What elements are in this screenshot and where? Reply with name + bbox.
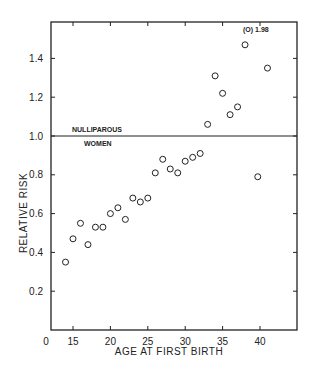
- data-point: [137, 199, 143, 205]
- data-points: [63, 42, 271, 265]
- data-point: [205, 121, 211, 127]
- x-axis-title: AGE AT FIRST BIRTH: [115, 346, 223, 357]
- data-point: [115, 205, 121, 211]
- y-axis-title: RELATIVE RISK: [18, 173, 29, 253]
- data-point: [70, 236, 76, 242]
- x-tick-label: 0: [43, 336, 49, 347]
- data-point: [190, 154, 196, 160]
- data-point: [160, 156, 166, 162]
- data-point: [175, 170, 181, 176]
- data-point: [77, 220, 83, 226]
- data-point: [100, 224, 106, 230]
- reference-line-nulliparous: NULLIPAROUSWOMEN: [51, 126, 297, 147]
- data-point: [227, 112, 233, 118]
- data-point: [264, 65, 270, 71]
- y-tick-label: 0.4: [29, 247, 43, 258]
- reference-label-below: WOMEN: [84, 140, 112, 147]
- data-point: [220, 90, 226, 96]
- y-tick-label: 0.8: [29, 169, 43, 180]
- y-axis: 0.20.40.60.81.01.21.4: [29, 53, 297, 297]
- reference-label-above: NULLIPAROUS: [72, 126, 122, 133]
- scatter-chart: 0.20.40.60.81.01.21.4 0152025303540 NULL…: [0, 0, 312, 375]
- data-point: [122, 216, 128, 222]
- plot-frame: [51, 22, 297, 330]
- plot-border: [51, 22, 297, 330]
- data-point: [197, 150, 203, 156]
- x-tick-label: 15: [67, 336, 79, 347]
- data-point: [242, 42, 248, 48]
- data-point: [167, 166, 173, 172]
- annotations: (O) 1.98: [243, 26, 269, 34]
- data-point: [107, 211, 113, 217]
- y-tick-label: 1.2: [29, 92, 43, 103]
- data-point: [92, 224, 98, 230]
- x-tick-label: 40: [254, 336, 266, 347]
- data-point: [130, 195, 136, 201]
- data-point: [152, 170, 158, 176]
- data-point: [255, 174, 261, 180]
- y-tick-label: 1.0: [29, 131, 43, 142]
- data-point: [85, 242, 91, 248]
- x-axis: 0152025303540: [43, 22, 266, 347]
- off-scale-annotation: (O) 1.98: [243, 26, 269, 34]
- data-point: [182, 158, 188, 164]
- data-point: [235, 104, 241, 110]
- data-point: [145, 195, 151, 201]
- y-tick-label: 0.2: [29, 286, 43, 297]
- y-tick-label: 0.6: [29, 208, 43, 219]
- y-tick-label: 1.4: [29, 53, 43, 64]
- data-point: [212, 73, 218, 79]
- data-point: [63, 259, 69, 265]
